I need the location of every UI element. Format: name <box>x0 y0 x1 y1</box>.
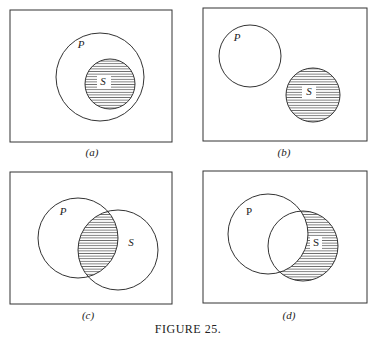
label-s-a: S <box>100 75 106 87</box>
label-p-a: P <box>78 38 85 50</box>
venn-figure <box>0 0 376 347</box>
panel-b <box>203 8 367 141</box>
panel-d <box>203 171 367 303</box>
universe-box <box>203 8 367 141</box>
caption-c: (c) <box>82 309 94 321</box>
label-s-b: S <box>306 85 312 97</box>
figure-caption: FIGURE 25. <box>155 322 221 337</box>
caption-d: (d) <box>283 309 296 321</box>
panel-c <box>10 172 172 304</box>
label-p-c: P <box>60 205 67 217</box>
caption-a: (a) <box>86 146 99 158</box>
label-s-d: S <box>313 236 319 248</box>
label-p-b: P <box>234 31 241 43</box>
circle-p <box>219 25 281 87</box>
caption-b: (b) <box>278 146 291 158</box>
label-s-c: S <box>128 236 134 248</box>
panel-a <box>10 10 172 142</box>
label-p-d: P <box>246 205 252 217</box>
